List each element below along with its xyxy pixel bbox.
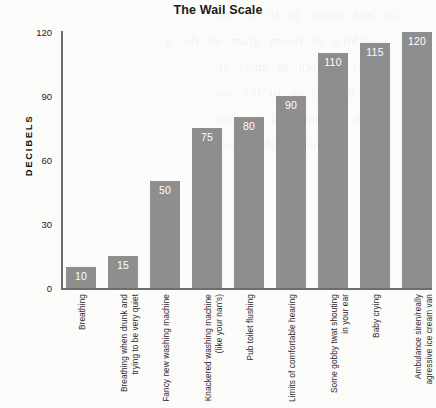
bar-value-label: 80	[234, 120, 264, 132]
bar-limits-comfortable-hearing[interactable]: 90	[276, 96, 306, 288]
bar-breathing[interactable]: 10	[66, 267, 96, 288]
bar-value-label: 75	[192, 131, 222, 143]
category-line-1: Fancy new washing machine	[161, 294, 171, 402]
bar-fancy-washing-machine[interactable]: 50	[150, 181, 180, 288]
bar-value-label: 110	[318, 56, 348, 68]
category-line-1: Some gobby twat shouting	[329, 294, 339, 393]
category-label-gobby-twat-shouting: Some gobby twat shouting in your ear	[329, 294, 350, 406]
category-label-breathing-drunk: Breathing when drunk and trying to be ve…	[119, 294, 140, 406]
bar-breathing-drunk[interactable]: 15	[108, 256, 138, 288]
bar-ambulance-siren[interactable]: 120	[402, 32, 432, 288]
category-line-1: Breathing	[77, 294, 87, 330]
category-line-1: Pub toilet flushing	[245, 294, 255, 360]
bar-knackered-washing-machine[interactable]: 75	[192, 128, 222, 288]
bar-value-label: 120	[402, 35, 432, 47]
category-label-baby-crying: Baby crying	[371, 294, 382, 406]
category-label-limits-comfortable-hearing: Limits of comfortable hearing	[287, 294, 298, 406]
category-line-1: Breathing when drunk and	[119, 294, 129, 392]
bar-value-label: 50	[150, 184, 180, 196]
category-line-2: agressive ice cream van	[424, 294, 435, 406]
category-line-2: trying to be very quiet	[130, 294, 141, 406]
bar-value-label: 10	[66, 270, 96, 282]
category-line-2: in your ear	[340, 294, 351, 406]
bar-value-label: 90	[276, 99, 306, 111]
y-tick-label: 0	[0, 283, 52, 294]
category-label-knackered-washing-machine: Knackered washing machine (like your nan…	[203, 294, 224, 406]
category-line-1: Limits of comfortable hearing	[287, 294, 297, 402]
category-line-2: (like your nan's)	[214, 294, 225, 406]
y-axis-label: DECIBELS	[23, 101, 34, 191]
category-label-breathing: Breathing	[77, 294, 88, 406]
bar-pub-toilet-flushing[interactable]: 80	[234, 117, 264, 288]
bar-value-label: 115	[360, 46, 390, 58]
category-label-pub-toilet-flushing: Pub toilet flushing	[245, 294, 256, 406]
category-line-1: Knackered washing machine	[203, 294, 213, 401]
y-tick-label: 30	[0, 219, 52, 230]
x-axis-line	[61, 288, 432, 290]
category-line-1: Ambulance siren/really	[413, 294, 423, 379]
bars-layer: 10 15 50 75 80 90 110 115 120	[62, 32, 432, 288]
bar-value-label: 15	[108, 259, 138, 271]
y-tick-label: 60	[0, 155, 52, 166]
category-label-ambulance-siren: Ambulance siren/really agressive ice cre…	[413, 294, 434, 406]
y-tick-label: 120	[0, 27, 52, 38]
category-line-1: Baby crying	[371, 294, 381, 338]
wail-scale-bar-chart: The Wail Scale DECIBELS 0 30 60 90 120 1…	[0, 0, 436, 408]
category-label-fancy-washing-machine: Fancy new washing machine	[161, 294, 172, 406]
bar-gobby-twat-shouting[interactable]: 110	[318, 53, 348, 288]
y-tick-label: 90	[0, 91, 52, 102]
chart-title: The Wail Scale	[0, 3, 436, 17]
bar-baby-crying[interactable]: 115	[360, 43, 390, 288]
